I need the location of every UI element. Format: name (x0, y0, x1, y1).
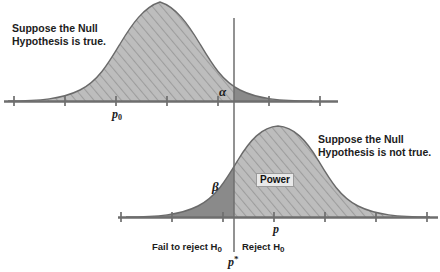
beta-label: β (212, 179, 219, 195)
null-curve-hatched-area (8, 2, 312, 101)
alt-mean-label: p (273, 222, 279, 237)
alpha-label: α (219, 84, 226, 100)
critical-value-superscript: * (234, 254, 239, 264)
reject-label: Reject H0 (242, 241, 284, 254)
null-mean-label: p0 (112, 107, 122, 122)
null-false-caption-line1: Suppose the Null (318, 133, 436, 146)
power-label-box: Power (256, 169, 294, 187)
fail-to-reject-label: Fail to reject H0 (152, 241, 222, 254)
null-mean-subscript: 0 (118, 113, 122, 122)
null-true-caption-line2: Hypothesis is true. (12, 35, 132, 48)
reject-text: Reject H (242, 241, 280, 252)
power-label: Power (256, 173, 294, 187)
null-distribution-group (4, 2, 338, 106)
power-diagram: Suppose the Null Hypothesis is true. Sup… (0, 0, 440, 272)
critical-value-label: p* (228, 254, 239, 270)
fail-to-reject-subscript: 0 (217, 245, 221, 254)
null-true-caption-line1: Suppose the Null (12, 22, 132, 35)
null-false-caption-line2: Hypothesis is not true. (318, 146, 436, 159)
fail-to-reject-text: Fail to reject H (152, 241, 217, 252)
reject-subscript: 0 (280, 245, 284, 254)
null-false-caption: Suppose the Null Hypothesis is not true. (318, 133, 436, 159)
null-true-caption: Suppose the Null Hypothesis is true. (12, 22, 132, 48)
